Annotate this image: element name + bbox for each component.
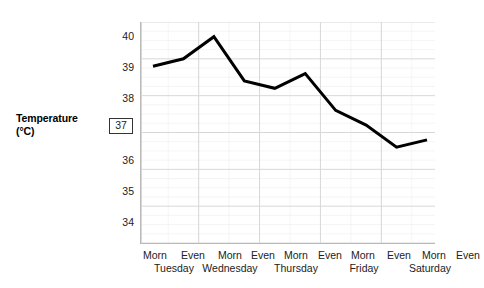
x-half-label-1: Even [176,249,210,261]
x-half-label-8: Morn [417,249,451,261]
y-tick-34: 34 [108,217,134,228]
x-axis-labels: Morn Even Morn Even Morn Even Morn Even … [134,249,444,288]
y-axis-title-line2: (°C) [16,125,108,138]
x-day-label-saturday: Saturday [392,262,468,274]
y-axis-title-line1: Temperature [16,112,78,124]
x-half-label-2: Morn [213,249,247,261]
x-half-label-4: Morn [279,249,313,261]
major-gridlines [141,22,435,243]
plot-area [140,22,435,244]
x-day-label-wednesday: Wednesday [192,262,268,274]
x-half-label-0: Morn [138,249,172,261]
y-tick-39: 39 [108,62,134,73]
y-tick-36: 36 [108,155,134,166]
x-day-label-thursday: Thursday [258,262,334,274]
x-half-label-7: Even [382,249,416,261]
x-half-label-6: Morn [346,249,380,261]
y-tick-38: 38 [108,93,134,104]
y-tick-35: 35 [108,186,134,197]
y-tick-40: 40 [108,31,134,42]
x-day-label-friday: Friday [326,262,402,274]
x-half-label-3: Even [246,249,280,261]
x-half-label-9: Even [451,249,484,261]
chart-plot-svg [141,22,435,243]
y-tick-37-highlighted: 37 [109,118,133,134]
x-half-label-5: Even [313,249,347,261]
y-axis-tick-labels: 40 39 38 37 36 35 34 [104,0,134,288]
y-axis-title: Temperature (°C) [16,112,108,137]
